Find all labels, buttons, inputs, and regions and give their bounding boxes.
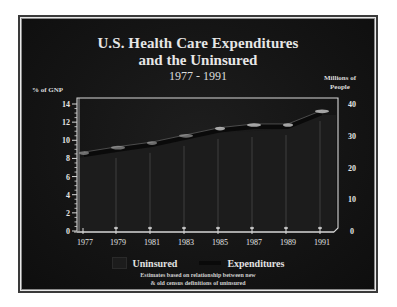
right-tick-label: 0: [350, 227, 354, 236]
expenditures-highlight: [215, 127, 225, 131]
expenditures-highlight: [283, 123, 293, 127]
left-tick-label: 12: [62, 118, 70, 127]
right-tick-label: 40: [348, 100, 356, 109]
chart-frame: U.S. Health Care Expenditures and the Un…: [18, 15, 378, 293]
right-tick-label: 10: [348, 195, 356, 204]
x-tick-label: 1989: [280, 238, 296, 247]
frame-border-light: U.S. Health Care Expenditures and the Un…: [20, 17, 376, 291]
left-tick-label: 4: [66, 191, 70, 200]
x-tick-label: 1981: [144, 238, 160, 247]
expenditures-highlight: [247, 123, 261, 127]
left-tick-label: 10: [62, 136, 70, 145]
legend-label-expenditures: Expenditures: [227, 258, 284, 269]
x-tick-label: 1991: [314, 238, 330, 247]
left-tick-label: 2: [66, 209, 70, 218]
right-tick-label: 20: [348, 164, 356, 173]
x-tick-label: 1987: [246, 238, 262, 247]
left-tick-label: 8: [66, 154, 70, 163]
uninsured-swatch: [112, 257, 127, 269]
expenditures-highlight: [79, 151, 89, 155]
x-tick-label: 1983: [178, 238, 194, 247]
plot-area: 0246810121401020304019771979198119831985…: [22, 19, 376, 291]
expenditures-highlight: [111, 146, 125, 150]
legend-item-uninsured: Uninsured: [112, 257, 178, 269]
legend-label-uninsured: Uninsured: [133, 258, 178, 269]
right-tick-label: 30: [348, 132, 356, 141]
expenditures-highlight: [147, 141, 157, 145]
chart-panel: U.S. Health Care Expenditures and the Un…: [22, 19, 374, 289]
legend-item-expenditures: Expenditures: [199, 258, 284, 269]
left-tick-label: 6: [66, 173, 70, 182]
left-tick-label: 14: [62, 100, 70, 109]
legend: Uninsured Expenditures: [22, 257, 374, 269]
x-tick-label: 1977: [77, 238, 93, 247]
x-tick-label: 1979: [110, 238, 126, 247]
footnote-line2: & old census definitions of uninsured: [22, 280, 374, 288]
x-tick-label: 1985: [212, 238, 228, 247]
expenditures-highlight: [179, 134, 193, 138]
expenditures-swatch: [199, 261, 221, 265]
footnote: Estimates based on relationship between …: [22, 272, 374, 287]
footnote-line1: Estimates based on relationship between …: [22, 272, 374, 280]
expenditures-highlight: [315, 110, 329, 114]
frame-border-grey: U.S. Health Care Expenditures and the Un…: [21, 18, 375, 290]
left-tick-label: 0: [66, 227, 70, 236]
